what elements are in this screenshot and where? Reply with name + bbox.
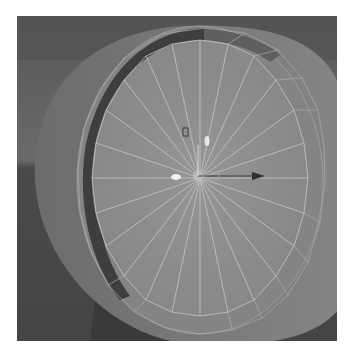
- 3d-viewport[interactable]: [17, 16, 337, 341]
- z-axis-arrow-icon[interactable]: [171, 174, 181, 180]
- y-axis-arrow-icon[interactable]: [205, 136, 210, 146]
